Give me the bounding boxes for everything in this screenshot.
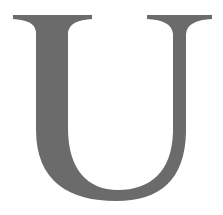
letter-u-glyph: U	[0, 0, 223, 215]
letter-u-shape	[0, 0, 223, 215]
